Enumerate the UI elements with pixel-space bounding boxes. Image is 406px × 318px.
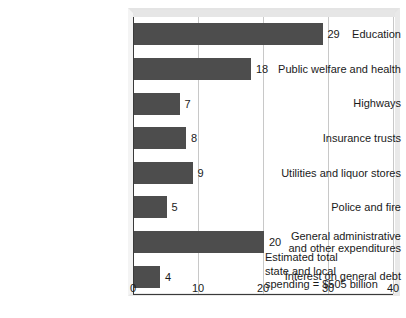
bar-value-label: 5	[172, 199, 178, 215]
bar	[134, 231, 264, 253]
category-label: Police and fire	[278, 201, 406, 214]
bar	[134, 93, 180, 115]
bar-value-label: 4	[165, 269, 171, 285]
bar-value-label: 7	[185, 96, 191, 112]
plot-top-band	[133, 10, 395, 17]
bar	[134, 196, 167, 218]
bar-value-label: 8	[191, 130, 197, 146]
bar-chart-figure: 29187895204 EducationPublic welfare and …	[0, 0, 406, 318]
bar	[134, 58, 251, 80]
bar-value-label: 9	[198, 165, 204, 181]
category-label: Education	[278, 28, 406, 41]
x-tick-label-0: 0	[118, 281, 148, 295]
x-tick-label-10: 10	[183, 281, 213, 295]
category-label: Public welfare and health	[278, 63, 406, 76]
bar	[134, 127, 186, 149]
total-spending-annotation: Estimated total state and local spending…	[265, 251, 405, 292]
bar	[134, 162, 193, 184]
category-label: Insurance trusts	[278, 132, 406, 145]
bar-value-label: 18	[256, 61, 268, 77]
category-label: Utilities and liquor stores	[278, 167, 406, 180]
category-label: Highways	[278, 97, 406, 110]
